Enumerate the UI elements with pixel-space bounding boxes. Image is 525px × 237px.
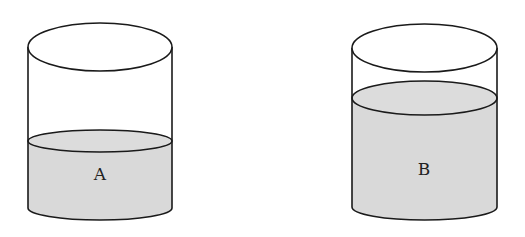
top-rim-b: [352, 24, 497, 72]
label-b: B: [418, 159, 431, 179]
label-a: A: [93, 164, 107, 184]
cylinders-diagram: A B: [0, 0, 525, 237]
liquid-surface-a: [28, 130, 172, 152]
cylinder-b: B: [352, 24, 497, 220]
top-rim-a: [28, 23, 172, 71]
liquid-surface-b: [352, 81, 497, 115]
cylinder-a: A: [28, 23, 172, 220]
